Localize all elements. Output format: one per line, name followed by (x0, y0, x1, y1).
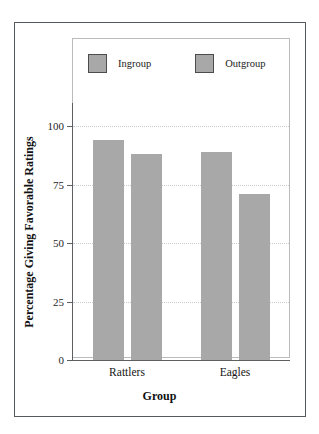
y-axis-tick-label: 0 (59, 354, 65, 366)
chart-legend: Ingroup Outgroup (72, 48, 290, 78)
y-axis-tick-label: 25 (53, 296, 64, 308)
legend-label-outgroup: Outgroup (225, 58, 265, 69)
y-axis-tick-label: 75 (53, 179, 64, 191)
bar (201, 152, 232, 360)
x-axis-category-label: Rattlers (109, 366, 145, 378)
y-axis-tick-mark (67, 185, 72, 186)
legend-label-ingroup: Ingroup (118, 58, 151, 69)
x-axis-title: Group (0, 389, 319, 404)
x-axis-line (72, 360, 290, 361)
bar (239, 194, 270, 360)
y-axis-title: Percentage Giving Favorable Ratings (22, 103, 40, 361)
bar (93, 140, 124, 360)
y-axis-tick-label: 100 (48, 120, 65, 132)
gridline (73, 126, 289, 127)
legend-entry-ingroup: Ingroup (88, 54, 151, 73)
y-axis-tick-mark (67, 360, 72, 361)
y-axis-tick-mark (67, 302, 72, 303)
plot-area: 0255075100 (73, 103, 289, 360)
figure-canvas: Ingroup Outgroup 0255075100 Percentage G… (0, 0, 319, 434)
y-axis-tick-mark (67, 243, 72, 244)
y-axis-tick-label: 50 (53, 237, 64, 249)
legend-swatch-icon (195, 54, 214, 73)
y-axis-tick-mark (67, 126, 72, 127)
legend-swatch-icon (88, 54, 107, 73)
x-axis-category-label: Eagles (220, 366, 251, 378)
legend-entry-outgroup: Outgroup (195, 54, 265, 73)
bar (131, 154, 162, 360)
